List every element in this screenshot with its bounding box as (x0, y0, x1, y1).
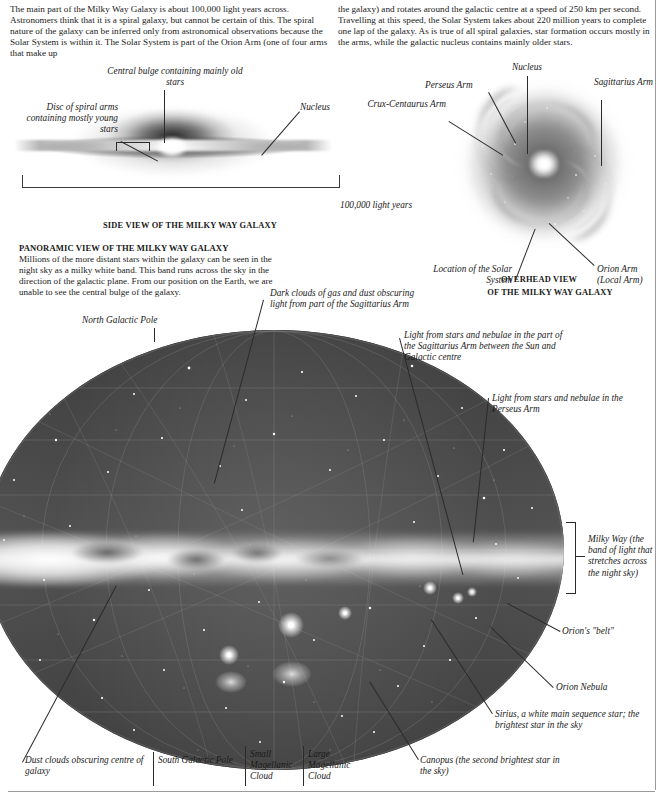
panoramic-all-sky-image (0, 330, 564, 770)
intro-paragraph-left: The main part of the Milky Way Galaxy is… (10, 4, 328, 59)
panoramic-orions-belt-label: Orion's "belt" (562, 626, 658, 637)
overhead-nucleus-glow (529, 150, 559, 178)
leader-smc (245, 746, 246, 786)
overhead-orion-arm-label: Orion Arm (Local Arm) (597, 264, 663, 286)
panoramic-sagittarius-light-label: Light from stars and nebulae in the part… (404, 330, 569, 364)
panoramic-band-bracket-tick (575, 556, 585, 557)
leader-south-pole (153, 752, 154, 786)
side-view-scale-bracket (22, 175, 340, 188)
leader-lmc (303, 746, 304, 786)
side-view-nucleus-glow (150, 132, 194, 162)
panoramic-north-pole-label: North Galactic Pole (82, 315, 212, 326)
panoramic-heading: PANORAMIC VIEW OF THE MILKY WAY GALAXY (19, 243, 279, 254)
overhead-nucleus-label: Nucleus (492, 62, 562, 73)
leader-sagittarius-arm (601, 100, 602, 166)
panoramic-lmc-label: Large Magellanic Cloud (308, 749, 370, 783)
leader-north-pole (154, 328, 155, 342)
panoramic-dust-clouds-label: Dust clouds obscuring centre of galaxy (25, 755, 165, 777)
leader-bulge (164, 90, 165, 143)
overhead-perseus-arm-label: Perseus Arm (425, 80, 505, 91)
intro-paragraph-right: the galaxy) and rotates around the galac… (338, 4, 650, 48)
page-border-bottom (8, 791, 655, 792)
panoramic-orion-nebula-label: Orion Nebula (556, 682, 646, 693)
side-view-caption: SIDE VIEW OF THE MILKY WAY GALAXY (80, 220, 300, 231)
panoramic-oval (0, 330, 564, 770)
panoramic-sirius-label: Sirius, a white main sequence star; the … (495, 709, 651, 731)
overhead-sagittarius-arm-label: Sagittarius Arm (594, 77, 656, 88)
side-view-scale-label: 100,000 light years (340, 200, 450, 211)
side-view-bulge-label: Central bulge containing mainly old star… (100, 66, 250, 88)
galaxy-reference-page: The main part of the Milky Way Galaxy is… (0, 0, 663, 803)
overhead-caption-line1: OVERHEAD VIEW (478, 274, 600, 285)
panoramic-description: Millions of the more distant stars withi… (19, 254, 279, 298)
panoramic-heading-block: PANORAMIC VIEW OF THE MILKY WAY GALAXY M… (19, 243, 279, 298)
side-view-nucleus-label: Nucleus (300, 102, 360, 113)
panoramic-dark-clouds-label: Dark clouds of gas and dust obscuring li… (270, 288, 420, 310)
panoramic-perseus-light-label: Light from stars and nebulae in the Pers… (492, 393, 647, 415)
panoramic-milky-way-band-label: Milky Way (the band of light that stretc… (588, 534, 660, 579)
panoramic-bright-objects (0, 330, 564, 770)
page-border-right (655, 0, 656, 790)
panoramic-canopus-label: Canopus (the second brightest star in th… (420, 755, 560, 777)
overhead-view-galaxy-image (455, 78, 633, 250)
overhead-crux-centaurus-arm-label: Crux-Centaurus Arm (360, 99, 446, 110)
panoramic-band-bracket (566, 522, 576, 594)
leader-overhead-nucleus (527, 76, 528, 154)
overhead-caption-line2: OF THE MILKY WAY GALAXY (470, 287, 630, 298)
panoramic-south-pole-label: South Galactic Pole (158, 755, 236, 766)
side-view-disc-label: Disc of spiral arms containing mostly yo… (18, 102, 118, 136)
panoramic-smc-label: Small Magellanic Cloud (250, 749, 310, 783)
